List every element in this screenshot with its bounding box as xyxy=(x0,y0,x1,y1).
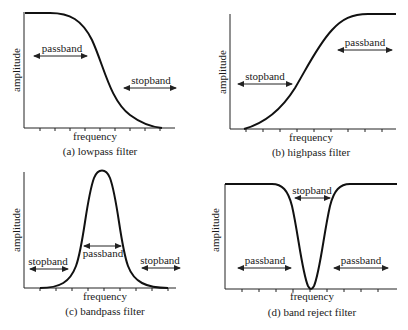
panel-bandpass: stopband passband stopband amplitude fre… xyxy=(10,171,180,319)
band-label: stopband xyxy=(292,184,332,196)
band-reject-curve xyxy=(225,184,397,289)
panel-caption: (a) lowpass filter xyxy=(63,145,138,158)
x-axis-label: frequency xyxy=(290,290,334,302)
panel-caption: (c) bandpass filter xyxy=(65,305,145,318)
y-axis-label: amplitude xyxy=(10,48,22,92)
bandpass-curve xyxy=(40,171,168,289)
lowpass-curve xyxy=(25,13,162,128)
panel-highpass: stopband passband amplitude frequency (b… xyxy=(216,14,396,159)
band-label: passband xyxy=(341,254,382,266)
panel-caption: (d) band reject filter xyxy=(268,306,357,319)
band-label: passband xyxy=(245,254,286,266)
panel-caption: (b) highpass filter xyxy=(272,146,351,159)
y-axis-label: amplitude xyxy=(209,208,221,252)
panel-lowpass: passband stopband amplitude frequency (a… xyxy=(10,12,176,158)
band-label: stopband xyxy=(245,70,285,82)
band-label: passband xyxy=(42,42,83,54)
band-label: passband xyxy=(345,36,386,48)
x-axis-label: frequency xyxy=(73,130,117,142)
filter-types-diagram: passband stopband amplitude frequency (a… xyxy=(0,0,408,330)
band-label: stopband xyxy=(140,254,180,266)
band-label: stopband xyxy=(28,255,68,267)
x-axis-label: frequency xyxy=(83,290,127,302)
panel-band-reject: passband stopband passband amplitude fre… xyxy=(209,184,397,319)
y-axis-label: amplitude xyxy=(10,208,22,252)
band-label: passband xyxy=(83,247,124,259)
x-axis-label: frequency xyxy=(289,131,333,143)
band-label: stopband xyxy=(131,74,171,86)
y-axis-label: amplitude xyxy=(216,50,228,94)
